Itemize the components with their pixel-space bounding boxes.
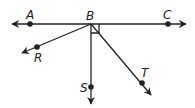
label-b: B — [86, 9, 94, 23]
geometry-diagram: A B C R S T — [0, 0, 195, 108]
label-r: R — [34, 51, 42, 65]
label-t: T — [141, 66, 150, 80]
point-c — [165, 21, 171, 27]
label-a: A — [25, 8, 34, 22]
point-t — [139, 80, 145, 86]
point-s — [88, 84, 94, 90]
point-a — [27, 21, 33, 27]
label-c: C — [163, 8, 172, 22]
point-r — [34, 44, 40, 50]
ray-br — [22, 24, 91, 53]
label-s: S — [80, 81, 88, 95]
